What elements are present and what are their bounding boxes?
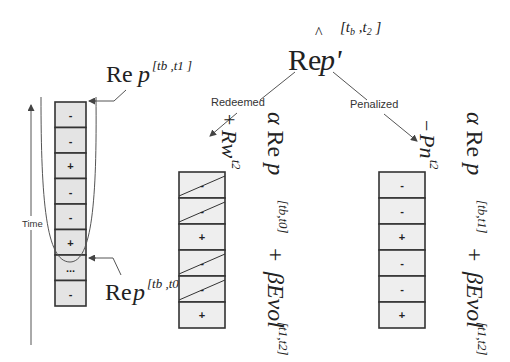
redeemed-formula-alpha: α Re p: [263, 112, 289, 175]
top-label: Re p [tb ,t1 ]: [106, 58, 192, 87]
redeemed-cell-sign: +: [199, 231, 205, 243]
history-cell-sign: -: [69, 211, 73, 223]
redeemed-cell-sign: -: [200, 205, 204, 217]
penalized-cell-sign: -: [400, 205, 404, 217]
penalized-formula-alpha: α Re p: [462, 112, 488, 175]
redeemed-cell-sign: +: [199, 309, 205, 321]
redeemed-formula-sup2: [t1,t2]: [276, 322, 291, 356]
reputation-diagram: ^ Re p' [tb ,t2 ] Redeemed Penalized + R…: [0, 0, 510, 362]
penalty-term: − Pn t2: [415, 120, 441, 169]
penalized-cell-sign: -: [400, 179, 404, 191]
reward-sign: +: [218, 114, 240, 125]
branch-line-redeemed: [260, 72, 295, 100]
penalty-sign: −: [416, 120, 438, 131]
history-cell-sign: -: [69, 135, 73, 147]
bottom-label-re: Re: [105, 279, 132, 305]
penalized-formula-beta: βEvol: [462, 271, 488, 328]
root-superscript: [tb ,t2 ]: [340, 19, 381, 37]
top-label-re: Re: [106, 61, 133, 87]
history-column: - - + - - + ... -: [55, 102, 86, 306]
penalized-formula-sup2: [t1,t2]: [475, 322, 490, 356]
penalized-cell-sign: +: [399, 309, 405, 321]
history-cell-sign: -: [69, 288, 73, 300]
root-p: p': [318, 43, 342, 76]
penalized-cell-sign: +: [399, 231, 405, 243]
bottom-label-p: p: [131, 279, 145, 305]
top-label-p: p: [136, 61, 150, 87]
penalized-arrow: [384, 114, 417, 141]
penalized-formula: α Re p [tb,t1] + βEvol [t1,t2]: [462, 112, 490, 356]
redeemed-formula: α Re p [tb,t0] + βEvol [t1,t2]: [263, 112, 291, 356]
root-re: Re: [288, 43, 321, 76]
redeemed-cell-sign: -: [200, 179, 204, 191]
history-cell-ellipsis: ...: [66, 262, 75, 274]
history-cell-sign: +: [67, 160, 73, 172]
bottom-pointer-line: [94, 258, 121, 275]
redeemed-cell-sign: -: [200, 283, 204, 295]
penalty-sup: t2: [427, 160, 441, 169]
penalized-cell-sign: -: [400, 283, 404, 295]
reward-main: Rw: [217, 129, 242, 158]
root-node: ^ Re p' [tb ,t2 ]: [288, 19, 381, 76]
branch-line-penalized: [333, 72, 367, 100]
history-cell-sign: +: [67, 237, 73, 249]
history-cell-sign: -: [69, 109, 73, 121]
redeemed-column: - - + - - +: [179, 172, 225, 328]
redeemed-label: Redeemed: [211, 96, 265, 108]
reward-sup: t2: [229, 160, 243, 169]
penalized-label: Penalized: [350, 98, 398, 110]
redeemed-cell-sign: -: [200, 257, 204, 269]
penalized-formula-plus: +: [462, 248, 488, 262]
top-pointer-line: [92, 90, 126, 101]
redeemed-formula-sup1: [tb,t0]: [276, 200, 291, 234]
penalty-main: Pn: [415, 133, 440, 158]
root-hat: ^: [315, 24, 323, 41]
time-axis-label: Time: [22, 218, 43, 229]
redeemed-formula-plus: +: [263, 248, 289, 262]
reward-term: + Rw t2: [217, 114, 243, 169]
penalized-cell-sign: -: [400, 257, 404, 269]
history-cell-sign: -: [69, 186, 73, 198]
redeemed-formula-beta: βEvol: [263, 271, 289, 328]
top-label-sup: [tb ,t1 ]: [152, 58, 192, 73]
penalized-column: - - + - - +: [379, 172, 425, 328]
penalized-formula-sup1: [tb,t1]: [475, 200, 490, 234]
bottom-label: Re p [tb ,t0 ]: [105, 276, 187, 305]
